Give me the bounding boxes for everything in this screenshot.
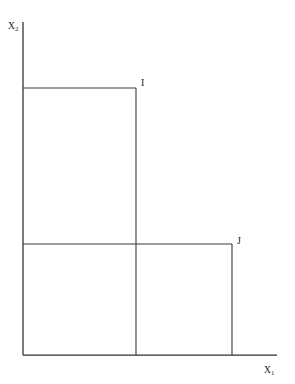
y-axis-label: X2: [8, 22, 18, 33]
region-label-j: J: [237, 236, 241, 246]
x-axis-label-subscript: 1: [271, 369, 274, 376]
x-axis-label: X1: [264, 366, 274, 377]
y-axis-label-base: X: [8, 21, 15, 31]
x-axis-label-base: X: [264, 365, 271, 375]
figure-canvas: X2 X1 I J: [0, 0, 295, 384]
y-axis-label-subscript: 2: [15, 25, 18, 32]
diagram-svg: [0, 0, 295, 384]
region-label-i: I: [141, 78, 145, 88]
